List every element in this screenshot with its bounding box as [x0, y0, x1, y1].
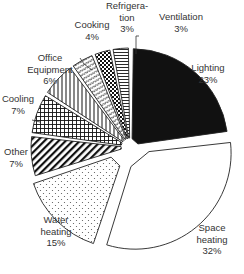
slice-name: Refrigera-: [106, 0, 148, 11]
slice-name: heating: [40, 226, 71, 237]
slice-percent: 6%: [43, 75, 57, 86]
slice-percent: 7%: [11, 105, 25, 116]
slice-name: Office: [38, 52, 63, 63]
slice-percent: 4%: [85, 31, 99, 42]
slice-name: Other: [4, 146, 28, 157]
slice-name: Ventilation: [159, 11, 203, 22]
slice-name: heating: [196, 234, 227, 245]
slice-percent: 3%: [174, 23, 188, 34]
slice-label-refrigeration: Refrigera-tion3%: [106, 0, 148, 34]
slice-label-cooling: Cooling7%: [2, 93, 34, 116]
slice-percent: 23%: [198, 74, 218, 85]
slice-percent: 7%: [9, 158, 23, 169]
slice-name: Lighting: [191, 62, 224, 73]
slice-name: tion: [119, 12, 134, 23]
slice-percent: 3%: [120, 23, 134, 34]
slice-label-ventilation: Ventilation3%: [159, 11, 203, 34]
slice-name: Equipment: [27, 64, 73, 75]
slice-name: Cooking: [75, 19, 110, 30]
slice-name: Water: [44, 214, 69, 225]
slice-label-water-heating: Waterheating15%: [40, 214, 71, 248]
slice-percent: 15%: [46, 237, 66, 248]
slice-label-other: Other7%: [4, 146, 28, 169]
slice-name: Space: [199, 222, 226, 233]
slice-label-space-heating: Spaceheating32%: [196, 222, 227, 256]
slice-label-cooking: Cooking4%: [75, 19, 110, 42]
slice-name: Cooling: [2, 93, 34, 104]
slice-percent: 32%: [202, 245, 222, 256]
pie-chart: Lighting23%Spaceheating32%Waterheating15…: [0, 0, 244, 274]
